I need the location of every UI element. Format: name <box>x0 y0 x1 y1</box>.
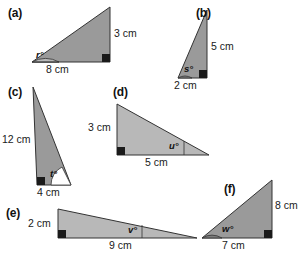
angle-label-f: w° <box>222 223 233 234</box>
side-label-f-height: 8 cm <box>275 199 298 211</box>
angle-label-d: u° <box>169 140 179 151</box>
triangle-f-right-angle-marker <box>264 230 272 238</box>
triangle-d-right-angle-marker <box>117 147 125 155</box>
triangle-b-right-angle-marker <box>199 70 207 78</box>
side-label-d-height: 3 cm <box>88 121 111 133</box>
angle-label-b: s° <box>184 63 193 74</box>
triangle-f <box>202 180 272 238</box>
side-label-a-base: 8 cm <box>46 63 69 75</box>
triangle-c-right-angle-marker <box>37 177 45 185</box>
side-label-a-height: 3 cm <box>114 27 137 39</box>
side-label-d-base: 5 cm <box>145 156 168 168</box>
triangle-f-shape <box>202 180 272 238</box>
triangle-a-right-angle-marker <box>102 54 110 62</box>
side-label-c-height: 12 cm <box>2 133 31 145</box>
angle-label-e: v° <box>128 224 137 235</box>
panel-letter-a: (a) <box>8 6 22 20</box>
triangles-canvas <box>0 0 300 254</box>
panel-letter-c: (c) <box>8 85 22 99</box>
triangle-d-shape <box>117 104 209 155</box>
side-label-c-base: 4 cm <box>37 186 60 198</box>
triangle-e-right-angle-marker <box>58 230 66 238</box>
side-label-b-base: 2 cm <box>174 79 197 91</box>
triangle-d <box>117 104 209 155</box>
panel-letter-f: (f) <box>224 182 235 196</box>
panel-letter-e: (e) <box>6 206 20 220</box>
side-label-f-base: 7 cm <box>222 239 245 251</box>
side-label-e-height: 2 cm <box>28 217 51 229</box>
panel-letter-b: (b) <box>196 6 211 20</box>
panel-letter-d: (d) <box>113 85 128 99</box>
geometry-figure: (a) 3 cm 8 cm r° (b) 5 cm 2 cm s° (c) 12… <box>0 0 300 254</box>
side-label-e-base: 9 cm <box>109 239 132 251</box>
angle-label-c: t° <box>50 168 57 179</box>
side-label-b-height: 5 cm <box>211 40 234 52</box>
angle-label-a: r° <box>36 49 44 60</box>
